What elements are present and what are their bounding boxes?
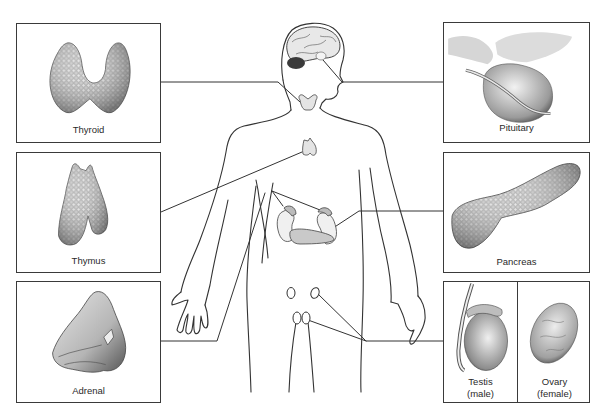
pancreas-label: Pancreas bbox=[444, 256, 589, 267]
adrenal-label: Adrenal bbox=[17, 385, 160, 396]
body-thymus-icon bbox=[303, 138, 317, 155]
body-gonads-icon bbox=[287, 286, 321, 324]
panel-gonads: Testis (male) Ovary (female) bbox=[443, 281, 590, 403]
panel-pancreas: Pancreas bbox=[443, 152, 590, 273]
connector-gonads bbox=[318, 294, 443, 341]
panel-thyroid: Thyroid bbox=[16, 23, 161, 143]
ovary-sublabel: (female) bbox=[518, 388, 591, 399]
brain-icon bbox=[287, 27, 340, 69]
panel-adrenal: Adrenal bbox=[16, 281, 161, 403]
connector-pancreas bbox=[327, 211, 443, 232]
panel-ovary: Ovary (female) bbox=[518, 282, 591, 402]
panel-thymus: Thymus bbox=[16, 152, 161, 273]
connector-thyroid bbox=[161, 82, 300, 102]
testis-sublabel: (male) bbox=[444, 388, 517, 399]
thyroid-label: Thyroid bbox=[17, 124, 160, 135]
ovary-label: Ovary bbox=[518, 376, 591, 387]
panel-testis: Testis (male) bbox=[444, 282, 517, 402]
pituitary-label: Pituitary bbox=[444, 122, 589, 133]
body-thyroid-icon bbox=[299, 95, 317, 110]
thymus-label: Thymus bbox=[17, 255, 160, 266]
panel-pituitary: Pituitary bbox=[443, 22, 590, 143]
adrenal-illustration bbox=[17, 282, 160, 402]
pancreas-illustration bbox=[444, 153, 589, 272]
testis-label: Testis bbox=[444, 376, 517, 387]
endocrine-diagram: Thyroid Thymus Adrenal bbox=[0, 0, 603, 411]
